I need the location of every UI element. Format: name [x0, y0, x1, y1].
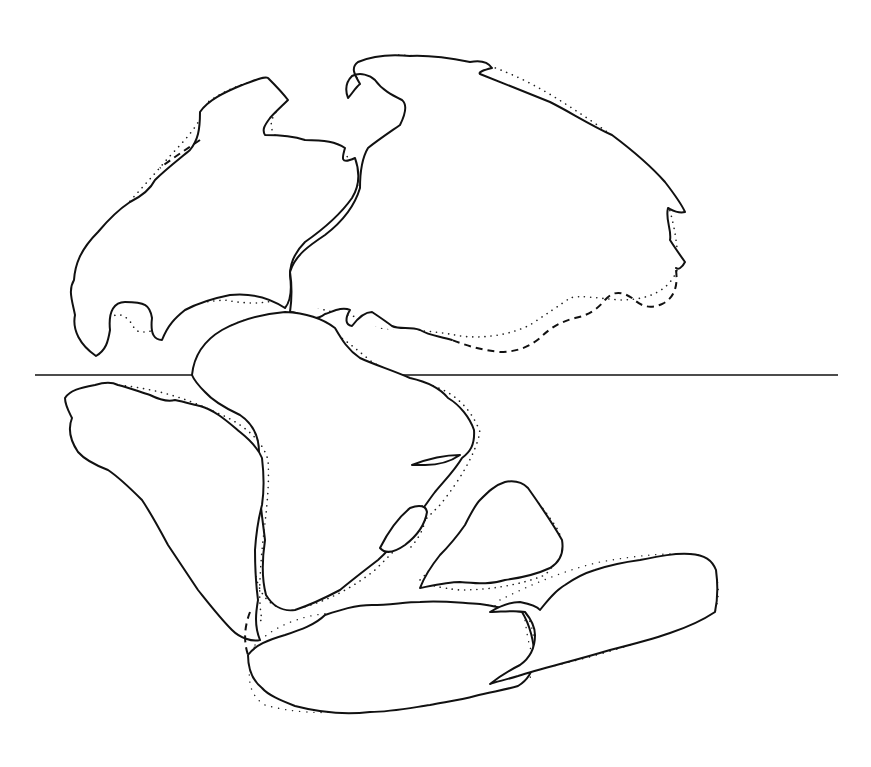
india	[420, 481, 563, 590]
eurasia	[290, 55, 685, 352]
pangaea-map	[0, 0, 871, 767]
antarctica	[245, 601, 535, 713]
north-america	[71, 77, 360, 356]
south-america	[65, 383, 268, 641]
